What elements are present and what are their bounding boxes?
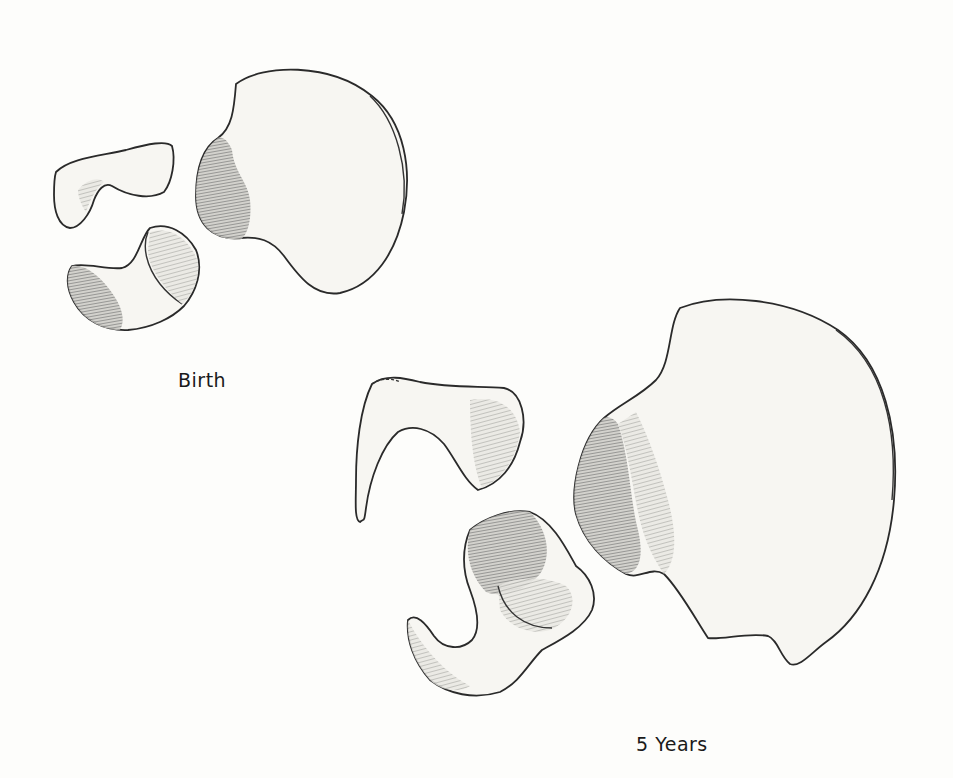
illustration-canvas: Birth 5 Years	[0, 0, 953, 778]
five-years-group	[356, 299, 896, 695]
birth-group	[54, 70, 407, 330]
birth-ilium	[196, 70, 407, 294]
five-years-ischium	[408, 511, 594, 695]
label-birth: Birth	[178, 369, 226, 391]
five-years-pubis	[356, 378, 524, 522]
pelvis-development-illustration	[0, 0, 953, 778]
birth-ischium	[68, 226, 199, 330]
label-five-years: 5 Years	[636, 733, 708, 755]
birth-pubis	[54, 143, 174, 228]
five-years-ilium	[574, 299, 895, 664]
